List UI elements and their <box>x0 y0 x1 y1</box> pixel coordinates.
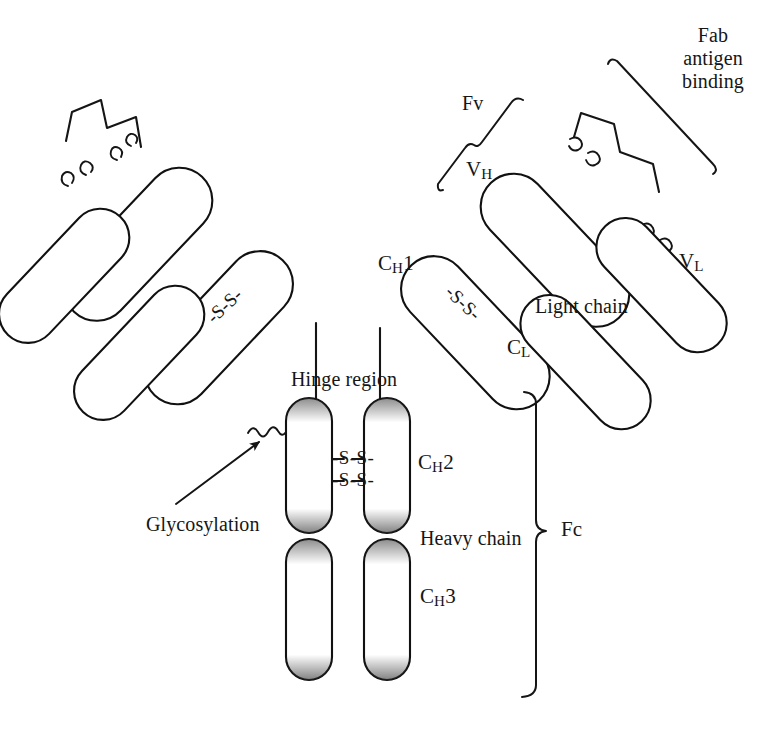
bracket-fc <box>522 392 546 697</box>
cl-label-prefix: C <box>507 335 521 359</box>
hinge-region-label: Hinge region <box>291 368 397 390</box>
ch3-label-sub: H <box>434 593 445 609</box>
antibody-schematic-svg <box>0 0 765 729</box>
antibody-diagram: Fab antigen binding Fv VH VL CH1 CL Ligh… <box>0 0 765 729</box>
disulfide-label-hinge-upper: -S-S- <box>332 447 374 468</box>
ch2-label: CH2 <box>418 451 454 476</box>
ch3-label-suffix: 3 <box>445 584 456 608</box>
glycosylation-label: Glycosylation <box>146 513 260 535</box>
domain-cl-left <box>62 274 216 432</box>
light-chain-label: Light chain <box>535 295 628 317</box>
ch1-label: CH1 <box>378 252 414 277</box>
ch1-label-sub: H <box>392 260 403 276</box>
cl-label-sub: L <box>521 344 530 360</box>
fab-label-line3: binding <box>667 70 759 93</box>
glycosylation-marker <box>176 427 286 504</box>
left-fab-arm <box>0 100 316 432</box>
domain-vl-right <box>584 206 738 364</box>
fc-region <box>286 398 410 680</box>
cl-label: CL <box>507 336 530 361</box>
cdr-zigzag-left-heavy <box>66 100 141 147</box>
vh-label: VH <box>466 158 492 183</box>
ch1-label-prefix: C <box>378 251 392 275</box>
fv-label: Fv <box>462 92 483 114</box>
domain-ch3-right <box>364 539 410 680</box>
vl-label-sub: L <box>694 258 703 274</box>
glycan-squiggle <box>248 427 286 436</box>
ch2-label-sub: H <box>432 459 443 475</box>
vl-label: VL <box>679 250 704 275</box>
glycosylation-arrow <box>176 442 259 504</box>
vh-label-sub: H <box>481 166 492 182</box>
domain-ch2-left <box>286 398 332 533</box>
ch3-label-prefix: C <box>420 584 434 608</box>
disulfide-label-hinge-lower: -S-S- <box>332 469 374 490</box>
ch2-label-prefix: C <box>418 450 432 474</box>
ch3-label: CH3 <box>420 585 456 610</box>
cdr-hooks-left-heavy <box>111 134 138 160</box>
right-fab-arm <box>380 113 739 441</box>
vh-label-prefix: V <box>466 157 481 181</box>
fab-antigen-binding-label: Fab antigen binding <box>667 24 759 94</box>
heavy-chain-label: Heavy chain <box>420 527 522 549</box>
fc-label: Fc <box>561 518 582 542</box>
ch2-label-suffix: 2 <box>443 450 454 474</box>
cdr-zigzag-right-heavy <box>574 113 659 192</box>
ch1-label-suffix: 1 <box>403 251 414 275</box>
vl-label-prefix: V <box>679 249 694 273</box>
cdr-zigzag-left-light <box>62 161 93 186</box>
fab-label-line2: antigen <box>667 47 759 70</box>
cdr-hooks-right-heavy <box>569 137 600 165</box>
domain-ch3-left <box>286 539 332 680</box>
fab-label-line1: Fab <box>667 24 759 47</box>
